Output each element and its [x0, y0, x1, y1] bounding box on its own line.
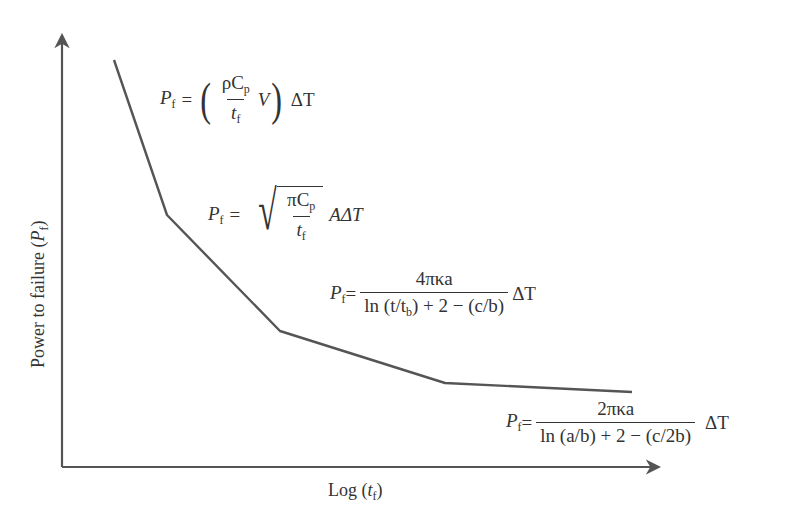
eq4-lhs: Pf [506, 410, 522, 435]
equation-steady-state: Pf = 2πκa ln (a/b) + 2 − (c/2b) ΔT [506, 398, 729, 447]
radical-sign-icon: √ [258, 182, 276, 244]
eq3-lhs: Pf [330, 282, 346, 307]
equation-cylindrical-transient: Pf = 4πκa ln (t/tb) + 2 − (c/b) ΔT [330, 268, 536, 320]
eq1-lhs: Pf [160, 87, 176, 112]
equation-thermal-diffusion: Pf = √ πCp tf AΔT [208, 186, 363, 244]
eq1-fraction: ρCp tf [218, 72, 254, 127]
x-axis-label: Log (tf) [328, 480, 383, 504]
right-paren: ) [272, 77, 283, 123]
eq4-fraction: 2πκa ln (a/b) + 2 − (c/2b) [536, 398, 695, 447]
eq2-lhs: Pf [208, 203, 224, 228]
eq3-fraction: 4πκa ln (t/tb) + 2 − (c/b) [360, 268, 508, 320]
y-axis-label: Power to failure (Pf) [28, 221, 52, 368]
eq2-fraction: πCp tf [283, 189, 319, 244]
left-paren: ( [201, 77, 212, 123]
plot-canvas [0, 0, 786, 527]
equation-adiabatic: Pf = ( ρCp tf V ) ΔT [160, 72, 315, 127]
square-root: √ πCp tf [252, 186, 323, 244]
